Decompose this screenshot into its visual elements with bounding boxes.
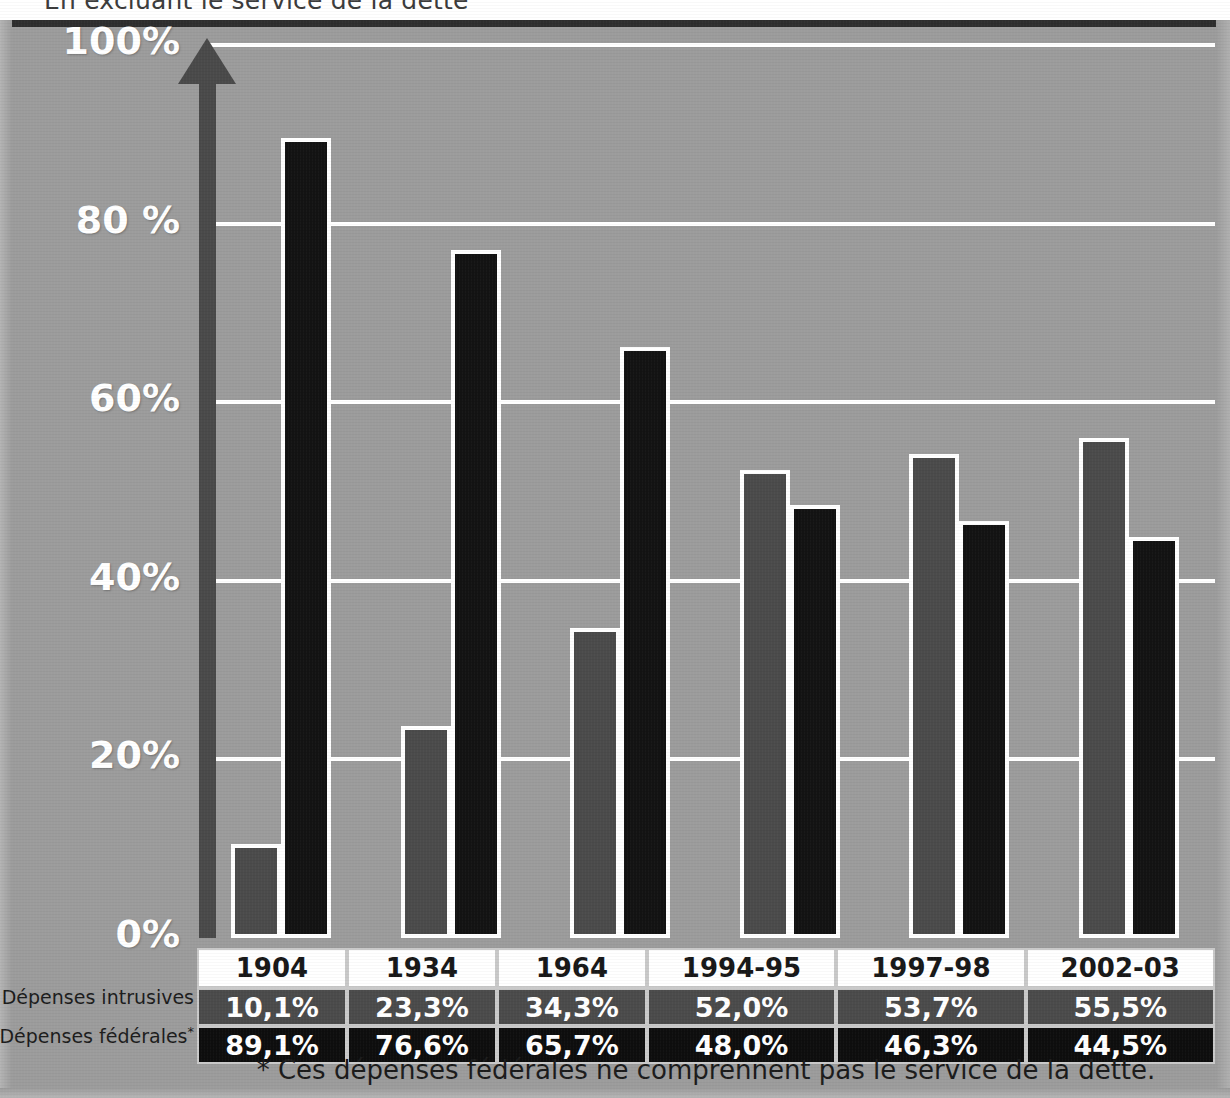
bar-1964-federales <box>620 347 670 938</box>
row-label-federales: Dépenses fédérales* <box>0 1024 194 1047</box>
table-header-1994-95: 1994-95 <box>647 948 836 988</box>
bar-1904-intrusives <box>231 844 281 938</box>
bar-1997-98-federales <box>959 521 1009 938</box>
bar-1994-95-federales <box>790 505 840 938</box>
data-table: 1904193419641994-951997-982002-0310,1%23… <box>197 948 1215 1064</box>
plot-area: 100%80 %60%40%20%0% <box>0 0 1230 1098</box>
footnote: * Ces dépenses fédérales ne comprennent … <box>197 1055 1215 1085</box>
bar-2002-03-intrusives <box>1079 438 1129 938</box>
bar-1934-intrusives <box>401 726 451 938</box>
table-cell-1934-intrusives: 23,3% <box>347 988 497 1026</box>
table-header-1997-98: 1997-98 <box>836 948 1025 988</box>
bar-1994-95-intrusives <box>740 470 790 938</box>
table-header-2002-03: 2002-03 <box>1026 948 1215 988</box>
table-header-1934: 1934 <box>347 948 497 988</box>
table-cell-1994-95-intrusives: 52,0% <box>647 988 836 1026</box>
footnote-marker: * <box>188 1024 195 1039</box>
row-label-intrusives: Dépenses intrusives <box>2 986 194 1008</box>
table-cell-2002-03-intrusives: 55,5% <box>1026 988 1215 1026</box>
table-cell-1904-intrusives: 10,1% <box>197 988 347 1026</box>
bar-1904-federales <box>281 138 331 938</box>
bar-1997-98-intrusives <box>909 454 959 938</box>
table-header-1964: 1964 <box>497 948 647 988</box>
table-header-row: 1904193419641994-951997-982002-03 <box>197 948 1215 988</box>
table-header-1904: 1904 <box>197 948 347 988</box>
table-cell-1964-intrusives: 34,3% <box>497 988 647 1026</box>
bar-1934-federales <box>451 250 501 938</box>
bar-2002-03-federales <box>1129 537 1179 938</box>
bars-layer <box>0 0 1230 1098</box>
bar-1964-intrusives <box>570 628 620 938</box>
table-cell-1997-98-intrusives: 53,7% <box>836 988 1025 1026</box>
table-row: 10,1%23,3%34,3%52,0%53,7%55,5% <box>197 988 1215 1026</box>
